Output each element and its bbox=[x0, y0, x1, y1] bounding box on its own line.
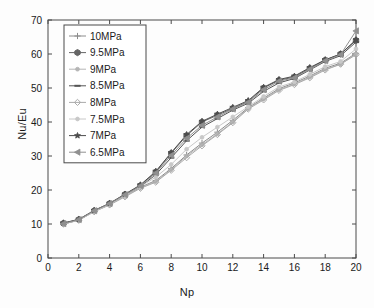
legend-label: 8MPa bbox=[90, 97, 117, 108]
data-point-marker bbox=[76, 67, 80, 71]
legend-label: 9MPa bbox=[90, 64, 117, 75]
x-tick-label: 2 bbox=[76, 262, 82, 273]
x-tick-label: 4 bbox=[107, 262, 113, 273]
x-tick-label: 20 bbox=[350, 262, 362, 273]
y-tick-label: 20 bbox=[31, 185, 43, 196]
legend-label: 6.5MPa bbox=[90, 147, 125, 158]
data-point-marker bbox=[76, 117, 80, 121]
data-point-marker bbox=[200, 135, 204, 139]
legend-label: 10MPa bbox=[90, 31, 122, 42]
legend-label: 7.5MPa bbox=[90, 114, 125, 125]
legend-label: 8.5MPa bbox=[90, 80, 125, 91]
x-tick-label: 16 bbox=[289, 262, 301, 273]
data-point-marker bbox=[354, 47, 358, 51]
x-tick-label: 18 bbox=[320, 262, 332, 273]
data-point-marker bbox=[231, 115, 235, 119]
data-point-marker bbox=[339, 60, 343, 64]
chart-figure: 02468101214161820010203040506070 10MPa9.… bbox=[0, 0, 374, 308]
data-point-marker bbox=[75, 50, 80, 56]
y-axis-label: Nu/Eu bbox=[16, 94, 28, 154]
x-tick-label: 6 bbox=[138, 262, 144, 273]
data-point-marker bbox=[308, 72, 312, 76]
y-tick-label: 40 bbox=[31, 117, 43, 128]
x-tick-label: 14 bbox=[258, 262, 270, 273]
legend-label: 7MPa bbox=[90, 130, 117, 141]
data-point-marker bbox=[262, 95, 266, 99]
x-tick-label: 0 bbox=[45, 262, 51, 273]
data-point-marker bbox=[215, 125, 219, 129]
x-tick-label: 12 bbox=[227, 262, 239, 273]
legend-label: 9.5MPa bbox=[90, 47, 125, 58]
x-tick-label: 8 bbox=[168, 262, 174, 273]
chart-legend: 10MPa9.5MPa9MPa8.5MPa8MPa7.5MPa7MPa6.5MP… bbox=[64, 25, 146, 163]
y-tick-label: 30 bbox=[31, 151, 43, 162]
y-tick-label: 60 bbox=[31, 49, 43, 60]
y-tick-label: 0 bbox=[36, 253, 42, 264]
plot-canvas: 02468101214161820010203040506070 10MPa9.… bbox=[0, 0, 374, 308]
y-tick-label: 50 bbox=[31, 83, 43, 94]
data-point-marker bbox=[277, 85, 281, 89]
data-point-marker bbox=[169, 163, 173, 167]
data-point-marker bbox=[323, 65, 327, 69]
data-point-marker bbox=[246, 105, 250, 109]
y-tick-label: 70 bbox=[31, 15, 43, 26]
y-tick-label: 10 bbox=[31, 219, 43, 230]
x-tick-label: 10 bbox=[196, 262, 208, 273]
data-point-marker bbox=[185, 147, 189, 151]
x-axis-label: Np bbox=[0, 286, 374, 298]
